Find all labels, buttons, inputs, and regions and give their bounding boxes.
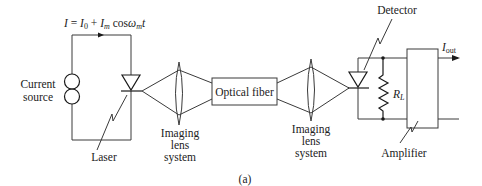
current-source-label: Current (20, 78, 56, 90)
laser-label: Laser (91, 151, 117, 163)
beam-lens1-to-fiber (179, 70, 212, 115)
lens2-label-line3: system (295, 147, 327, 160)
detector-label: Detector (377, 4, 417, 16)
output-current-label: Iout (441, 41, 457, 55)
output-arrow-icon (452, 55, 460, 61)
beam-lens2-to-detector (311, 67, 349, 113)
laser-diode-icon (121, 75, 142, 91)
top-wire (72, 35, 131, 75)
lens2-label-line2: lens (302, 135, 321, 147)
optical-fiber-label: Optical fiber (215, 86, 274, 99)
current-source-icon (65, 74, 80, 104)
lens1-label-line2: lens (171, 139, 190, 151)
load-resistor-icon (379, 58, 388, 119)
lens1-label-line3: system (164, 151, 196, 164)
current-direction-arrow-icon (98, 33, 104, 38)
laser-drive-circuit (72, 33, 131, 141)
optical-link-diagram: I = I0 + Im cosωmt Current source Laser … (0, 0, 482, 186)
figure-caption: (a) (239, 173, 252, 186)
beam-fiber-to-lens2 (277, 67, 311, 113)
amplifier-box (407, 49, 438, 128)
current-source-label-line2: source (23, 91, 53, 103)
detector-pointer-line (364, 19, 392, 70)
amplifier-label: Amplifier (381, 147, 427, 160)
photodetector-diode-icon (348, 72, 369, 88)
modulation-current-equation: I = I0 + Im cosωmt (63, 17, 146, 31)
bottom-wire (72, 91, 131, 140)
load-resistor-label: RL (392, 88, 405, 102)
beam-laser-to-lens1 (142, 70, 179, 115)
laser-pointer-line (97, 95, 127, 150)
amplifier-pointer-line (400, 121, 418, 143)
